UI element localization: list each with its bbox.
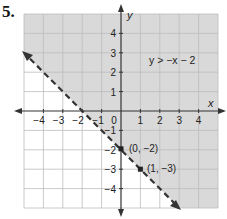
point-1-neg3 [138,167,143,172]
x-tick-label: 4 [196,115,202,126]
y-tick-label: 4 [110,28,116,39]
x-tick-label: 1 [138,115,144,126]
x-axis-left-arrow-icon [14,108,22,114]
x-axis-right-arrow-icon [218,108,226,114]
y-tick-label: −1 [105,125,117,136]
point-label-1-neg3: (1, −3) [147,163,176,174]
y-axis-down-arrow-icon [118,209,124,217]
x-tick-label: −1 [92,115,104,126]
x-tick-label: −2 [72,115,84,126]
x-tick-label: −4 [33,115,45,126]
point-0-neg2 [119,146,124,151]
x-tick-label: 3 [176,115,182,126]
y-tick-label: −2 [105,145,117,156]
x-tick-label: 2 [157,115,163,126]
inequality-graph: −4 −3 −2 −1 0 1 2 3 4 4 3 2 1 −1 −2 −3 −… [0,0,227,219]
x-tick-label: −3 [53,115,65,126]
y-tick-label: −4 [105,184,117,195]
y-axis-up-arrow-icon [118,4,124,12]
point-label-0-neg2: (0, −2) [129,143,158,154]
y-tick-label: −3 [105,164,117,175]
y-tick-label: 3 [110,48,116,59]
inequality-label: y > −x − 2 [149,54,196,66]
x-axis-label: x [207,97,214,109]
y-tick-label: 2 [110,67,116,78]
y-tick-label: 1 [110,87,116,98]
